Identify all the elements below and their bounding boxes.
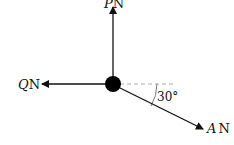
force-p-symbol: P xyxy=(103,0,113,11)
force-q-symbol: Q xyxy=(18,77,29,92)
force-p-label: PN xyxy=(103,0,124,11)
angle-label: 30° xyxy=(157,90,178,104)
force-p-unit: N xyxy=(113,0,124,11)
force-q-label: QN xyxy=(18,77,40,92)
force-q-unit: N xyxy=(29,77,40,92)
force-a-symbol: A xyxy=(206,121,216,136)
force-a-unit: N xyxy=(218,121,229,136)
force-diagram: PN QN AN 30° xyxy=(0,0,234,145)
particle xyxy=(105,76,121,92)
force-a-label: AN xyxy=(206,121,230,136)
